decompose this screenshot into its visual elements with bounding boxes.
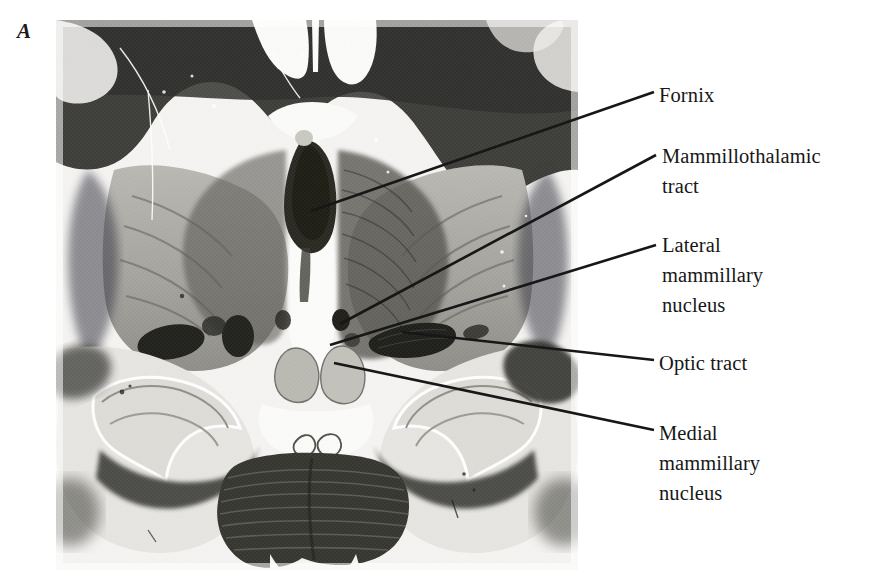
panel-letter: A [17,19,32,44]
label-medial-mammillary-nucleus: Medial mammillary nucleus [659,418,760,508]
label-lateral-mammillary-nucleus: Lateral mammillary nucleus [662,230,763,320]
label-fornix: Fornix [659,80,714,110]
label-optic-tract: Optic tract [659,348,747,378]
figure-page: A [0,0,877,584]
brain-section-image [56,20,578,570]
label-mammillothalamic-tract: Mammillothalamic tract [662,141,821,201]
coronal-section-graphic [56,20,578,570]
